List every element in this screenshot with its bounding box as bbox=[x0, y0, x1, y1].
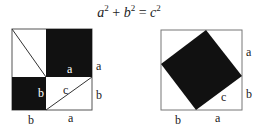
pythagoras-diagrams: a a b c b b a a b c b a bbox=[0, 0, 258, 132]
label-left-b-bottom: b bbox=[28, 113, 34, 127]
label-left-a-bottom: a bbox=[68, 111, 74, 125]
label-left-b-side: b bbox=[96, 88, 102, 102]
label-right-a-side: a bbox=[246, 45, 252, 59]
label-right-b-bottom: b bbox=[175, 113, 181, 127]
label-right-c: c bbox=[221, 90, 226, 104]
label-right-b-side: b bbox=[246, 87, 252, 101]
label-left-a-black: a bbox=[67, 62, 73, 76]
right-square-diagram: a b c b a bbox=[161, 30, 252, 127]
label-left-a-side: a bbox=[96, 59, 102, 73]
label-left-c: c bbox=[63, 83, 68, 97]
left-square-diagram: a a b c b b a bbox=[12, 29, 102, 127]
label-left-b-black: b bbox=[38, 86, 44, 100]
label-right-a-bottom: a bbox=[215, 111, 221, 125]
